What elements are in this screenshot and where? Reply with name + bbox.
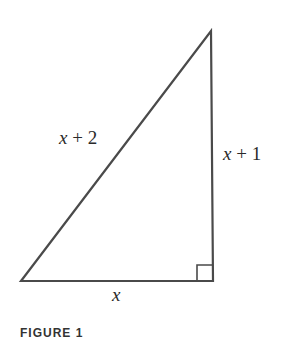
hypotenuse-num: 2 (88, 127, 98, 148)
right-angle-marker (197, 265, 213, 281)
base-label: x (112, 284, 120, 306)
base-var: x (112, 284, 120, 305)
vertical-leg-op: + (231, 143, 251, 164)
hypotenuse-label: x + 2 (59, 127, 97, 149)
vertical-leg-num: 1 (252, 143, 262, 164)
figure-caption: FIGURE 1 (20, 326, 83, 340)
vertical-leg-label: x + 1 (223, 143, 261, 165)
hypotenuse-op: + (67, 127, 87, 148)
right-triangle (21, 31, 213, 281)
